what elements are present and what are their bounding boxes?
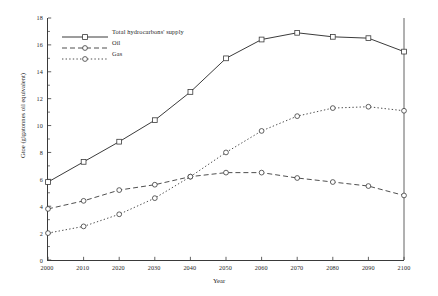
x-tick-label: 2000 — [30, 264, 64, 271]
data-point-marker — [259, 170, 264, 175]
data-point-marker — [46, 180, 51, 185]
y-tick-label: 18 — [21, 14, 43, 21]
data-point-marker — [295, 114, 300, 119]
x-tick-label: 2020 — [101, 264, 135, 271]
legend-label: Total hydrocarbons' supply — [112, 28, 184, 35]
x-tick-label: 2050 — [209, 264, 243, 271]
data-point-marker — [224, 170, 229, 175]
data-point-marker — [295, 176, 300, 181]
data-point-marker — [117, 139, 122, 144]
y-tick-label: 0 — [21, 257, 43, 264]
y-tick-label: 8 — [21, 149, 43, 156]
series-2 — [46, 170, 407, 211]
data-point-marker — [402, 108, 407, 113]
data-point-marker — [81, 198, 86, 203]
data-point-marker — [402, 193, 407, 198]
data-point-marker — [330, 180, 335, 185]
legend-label: Gas — [112, 50, 122, 57]
x-tick-label: 2040 — [173, 264, 207, 271]
y-tick-label: 2 — [21, 230, 43, 237]
data-point-marker — [188, 174, 193, 179]
legend-line-sample — [62, 38, 108, 46]
data-point-marker — [81, 224, 86, 229]
legend-item-2: Oil — [62, 38, 184, 46]
data-point-marker — [46, 231, 51, 236]
data-point-marker — [152, 118, 157, 123]
data-point-marker — [366, 104, 371, 109]
y-tick-label: 6 — [21, 176, 43, 183]
y-tick-label: 16 — [21, 41, 43, 48]
data-point-marker — [402, 49, 407, 54]
data-point-marker — [224, 56, 229, 61]
legend-item-3: Gas — [62, 49, 184, 57]
data-point-marker — [117, 188, 122, 193]
data-point-marker — [152, 182, 157, 187]
x-tick-label: 2100 — [387, 264, 421, 271]
x-tick-label: 2010 — [66, 264, 100, 271]
x-tick-label: 2090 — [351, 264, 385, 271]
y-tick-label: 4 — [21, 203, 43, 210]
chart-legend: Total hydrocarbons' supplyOilGas — [62, 27, 184, 57]
series-line — [48, 173, 404, 209]
legend-line-sample — [62, 27, 108, 35]
data-point-marker — [117, 212, 122, 217]
x-tick-label: 2030 — [137, 264, 171, 271]
data-point-marker — [152, 196, 157, 201]
y-tick-label: 10 — [21, 122, 43, 129]
data-point-marker — [83, 57, 88, 62]
chart-figure: Gtoe (gigatonnes oil equivalent) Year 02… — [0, 0, 438, 296]
y-tick-label: 14 — [21, 68, 43, 75]
x-axis-title: Year — [0, 277, 438, 284]
data-point-marker — [330, 34, 335, 39]
legend-item-1: Total hydrocarbons' supply — [62, 27, 184, 35]
data-point-marker — [188, 90, 193, 95]
data-point-marker — [366, 184, 371, 189]
data-point-marker — [259, 37, 264, 42]
legend-line-sample — [62, 49, 108, 57]
data-point-marker — [366, 36, 371, 41]
x-tick-label: 2060 — [244, 264, 278, 271]
legend-label: Oil — [112, 39, 120, 46]
data-point-marker — [295, 30, 300, 35]
data-point-marker — [224, 150, 229, 155]
data-point-marker — [259, 129, 264, 134]
x-tick-label: 2070 — [280, 264, 314, 271]
x-tick-label: 2080 — [316, 264, 350, 271]
y-tick-label: 12 — [21, 95, 43, 102]
data-point-marker — [46, 207, 51, 212]
data-point-marker — [330, 106, 335, 111]
data-point-marker — [81, 159, 86, 164]
